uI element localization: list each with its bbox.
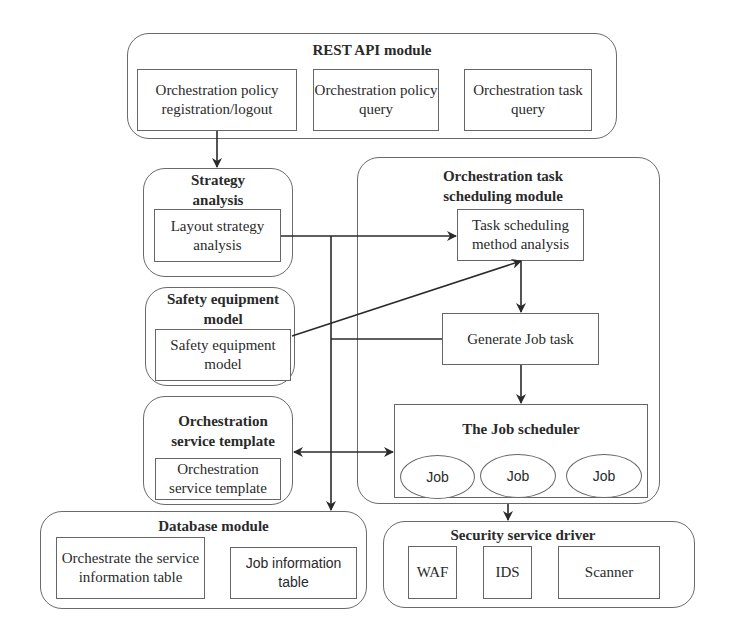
job-scheduler-title: The Job scheduler xyxy=(462,419,580,439)
policy-query-box: Orchestration policy query xyxy=(313,69,439,131)
job-information-table-box: Job information table xyxy=(230,547,357,599)
strategy-analysis-title: Strategy analysis xyxy=(170,170,266,210)
job-ellipse-2: Job xyxy=(480,454,556,498)
safety-equipment-title: Safety equipment model xyxy=(150,289,296,329)
job-ellipse-1: Job xyxy=(400,455,475,499)
layout-strategy-analysis-box: Layout strategy analysis xyxy=(154,209,281,262)
job-ellipse-3: Job xyxy=(566,454,642,498)
security-service-driver-title: Security service driver xyxy=(420,525,626,545)
service-template-box: Orchestration service template xyxy=(155,458,281,500)
scanner-box: Scanner xyxy=(558,546,660,599)
ids-box: IDS xyxy=(483,546,532,599)
service-template-title: Orchestration service template xyxy=(160,411,286,451)
database-module-title: Database module xyxy=(40,516,387,536)
rest-api-module-title: REST API module xyxy=(127,40,617,60)
waf-box: WAF xyxy=(408,546,457,599)
task-scheduling-method-box: Task scheduling method analysis xyxy=(457,209,584,261)
safety-equipment-box: Safety equipment model xyxy=(155,329,291,381)
policy-registration-logout-box: Orchestration policy registration/logout xyxy=(137,69,297,131)
service-information-table-box: Orchestrate the service information tabl… xyxy=(56,537,205,599)
task-scheduling-module-title: Orchestration task scheduling module xyxy=(420,166,586,206)
task-query-box: Orchestration task query xyxy=(464,69,592,131)
generate-job-task-box: Generate Job task xyxy=(442,313,599,365)
